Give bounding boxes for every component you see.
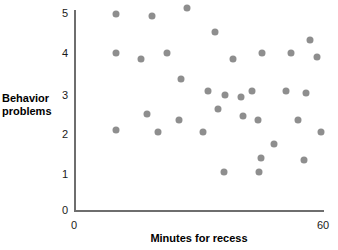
data-point [288,50,295,57]
data-point [112,127,119,134]
data-point [256,168,263,175]
data-point [112,50,119,57]
data-point [317,129,324,136]
x-tick-label-0: 0 [62,220,86,231]
data-point [258,50,265,57]
data-point [144,111,151,118]
data-point [163,50,170,57]
data-point [295,117,302,124]
data-point [270,141,277,148]
data-point [149,12,156,19]
data-point [300,156,307,163]
data-point [314,54,321,61]
scatter-chart: Behavior problems 012345 Minutes for rec… [0,0,338,250]
data-point [200,129,207,136]
data-point [258,154,265,161]
data-point [222,91,229,98]
data-point [249,87,256,94]
data-point [254,117,261,124]
data-point [112,11,119,18]
x-axis-title: Minutes for recess [119,232,279,244]
data-point [237,93,244,100]
x-tick-label-60: 60 [311,220,335,231]
data-point [183,5,190,12]
data-point [229,56,236,63]
data-point [307,36,314,43]
data-point [137,56,144,63]
data-point [204,87,211,94]
data-point [178,76,185,83]
data-point [283,87,290,94]
data-point [175,117,182,124]
data-point [215,105,222,112]
plot-area [0,0,338,250]
data-point [221,168,228,175]
data-point [239,113,246,120]
data-point [155,129,162,136]
data-point [212,28,219,35]
data-point [302,89,309,96]
